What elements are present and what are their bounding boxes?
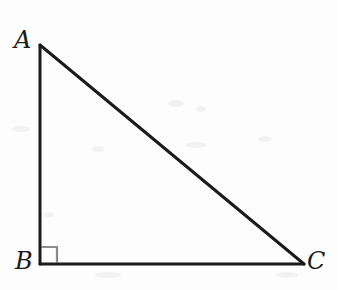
geometry-figure: A B C: [0, 0, 337, 290]
vertex-label-a: A: [14, 28, 31, 52]
edge-ca-hypotenuse-line: [40, 45, 304, 264]
vertex-label-c: C: [307, 249, 325, 273]
triangle-diagram-canvas: [0, 0, 337, 290]
right-angle-marker-icon: [42, 247, 58, 263]
vertex-label-b: B: [15, 249, 33, 273]
